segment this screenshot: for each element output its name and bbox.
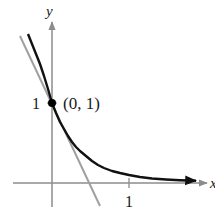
y-tick-label-1: 1 (32, 95, 40, 112)
x-axis-label: x (209, 175, 215, 191)
point-0-1 (48, 99, 56, 107)
y-axis-label: y (44, 3, 53, 19)
x-tick-label-1: 1 (125, 193, 133, 210)
function-graph: y x 1 1 (0, 1) (0, 0, 215, 214)
exponential-curve (28, 34, 196, 181)
point-label: (0, 1) (63, 94, 100, 113)
